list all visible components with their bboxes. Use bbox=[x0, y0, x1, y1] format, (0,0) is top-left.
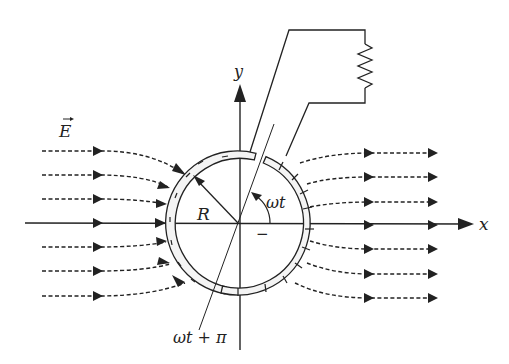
field-arrows-right bbox=[364, 148, 438, 303]
diagram-canvas: x y R bbox=[0, 0, 509, 364]
y-axis-label: y bbox=[233, 62, 244, 81]
field-label-text: E bbox=[58, 121, 72, 141]
resistor-icon bbox=[358, 44, 372, 88]
minus-label: − bbox=[256, 225, 269, 243]
angle-label: ωt bbox=[266, 193, 286, 212]
x-axis-label: x bbox=[479, 214, 489, 234]
angle-opposite-label: ωt + π bbox=[173, 328, 227, 347]
circuit-wire-upper bbox=[250, 30, 365, 152]
circuit-wire-lower bbox=[286, 88, 365, 156]
field-label: E bbox=[58, 117, 74, 141]
y-axis-arrow-icon bbox=[234, 84, 246, 102]
x-axis-arrow-icon bbox=[458, 218, 474, 230]
resistor-circuit bbox=[250, 30, 372, 156]
radius-label: R bbox=[196, 204, 210, 224]
x-axis bbox=[25, 218, 474, 230]
